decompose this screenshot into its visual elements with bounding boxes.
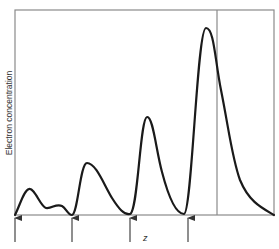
y-axis-label: Electron concentration — [4, 71, 14, 156]
x-axis-label: z — [143, 233, 148, 243]
plot-frame — [15, 10, 274, 215]
electron-concentration-curve — [15, 28, 274, 215]
diagram-canvas — [0, 0, 279, 249]
electron-concentration-diagram: Electron concentration z — [0, 0, 279, 249]
